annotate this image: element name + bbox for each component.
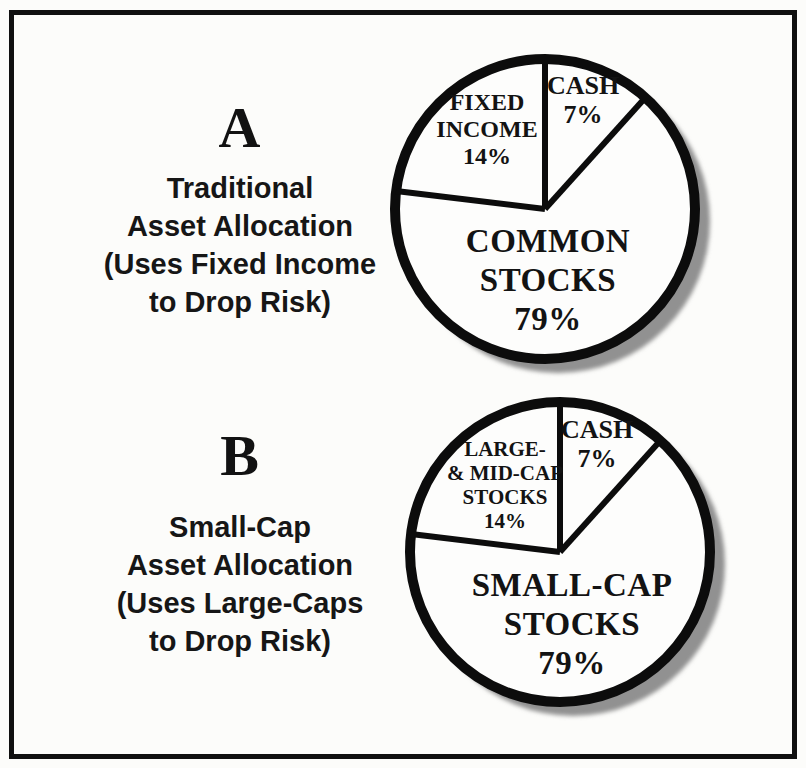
pie-b-cash-pct: 7% — [561, 444, 633, 473]
pie-b-largecap-line-3: STOCKS — [447, 485, 563, 509]
pie-a-cash-pct: 7% — [547, 100, 619, 129]
panel-b-title-line-3: (Uses Large-Caps — [30, 584, 450, 622]
pie-a-common-pct: 79% — [466, 300, 630, 339]
panel-b-title-line-4: to Drop Risk) — [30, 622, 450, 660]
pie-b-label-small-cap-stocks: SMALL-CAP STOCKS 79% — [472, 566, 673, 683]
pie-a-common-line-2: STOCKS — [466, 261, 630, 300]
panel-a-letter: A — [40, 99, 440, 157]
pie-b-largecap-line-1: LARGE- — [447, 437, 563, 461]
pie-b-smallcap-line-1: SMALL-CAP — [472, 566, 673, 605]
panel-b-letter: B — [40, 427, 440, 485]
pie-a-label-cash: CASH 7% — [547, 71, 619, 129]
pie-a-cash-name: CASH — [547, 71, 619, 100]
panel-b-title: Small-Cap Asset Allocation (Uses Large-C… — [30, 508, 450, 660]
panel-b-title-line-1: Small-Cap — [30, 508, 450, 546]
pie-b-smallcap-line-2: STOCKS — [472, 605, 673, 644]
pie-a-fixed-line-1: FIXED — [436, 89, 537, 116]
pie-a-fixed-line-2: INCOME — [436, 116, 537, 143]
pie-b-label-cash: CASH 7% — [561, 415, 633, 473]
pie-a-label-fixed-income: FIXED INCOME 14% — [436, 89, 537, 170]
panel-b-title-line-2: Asset Allocation — [30, 546, 450, 584]
pie-b-largecap-pct: 14% — [447, 509, 563, 533]
pie-a-label-common-stocks: COMMON STOCKS 79% — [466, 222, 630, 339]
pie-a-fixed-pct: 14% — [436, 143, 537, 170]
figure-canvas: A Traditional Asset Allocation (Uses Fix… — [0, 0, 806, 768]
pie-chart-a: CASH 7% FIXED INCOME 14% COMMON STOCKS 7… — [382, 44, 722, 384]
pie-b-label-large-mid-cap: LARGE- & MID-CAP STOCKS 14% — [447, 437, 563, 533]
pie-chart-b: CASH 7% LARGE- & MID-CAP STOCKS 14% SMAL… — [397, 387, 737, 727]
pie-a-common-line-1: COMMON — [466, 222, 630, 261]
pie-b-smallcap-pct: 79% — [472, 644, 673, 683]
pie-b-largecap-line-2: & MID-CAP — [447, 461, 563, 485]
pie-b-cash-name: CASH — [561, 415, 633, 444]
